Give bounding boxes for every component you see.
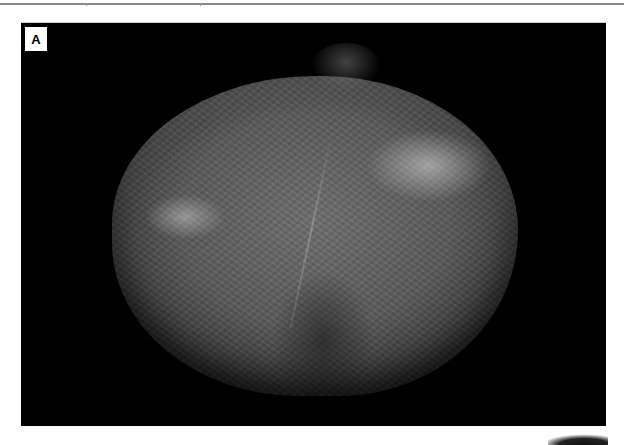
- header-tick-mark: [200, 3, 201, 6]
- specimen-image: [112, 76, 518, 396]
- figure-panel-a: A: [21, 22, 606, 426]
- specimen-top-structure: [311, 43, 381, 91]
- next-figure-fragment: [548, 433, 608, 445]
- header-tick-mark: [86, 3, 87, 6]
- page-header-rule: [0, 3, 624, 5]
- panel-label: A: [25, 27, 47, 51]
